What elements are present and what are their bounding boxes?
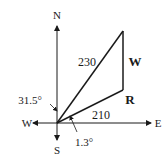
east-label: E <box>155 117 162 129</box>
angle-31-5-pointer <box>50 104 57 111</box>
angle-1-3-pointer <box>70 116 77 132</box>
vector-diagram: N S W E 230 W R 210 31.5° 1.3° <box>0 0 167 164</box>
north-label: N <box>53 9 61 21</box>
south-label: S <box>54 144 60 156</box>
r-magnitude-label: 210 <box>92 108 110 122</box>
angle-above-east-label: 1.3° <box>75 136 93 148</box>
w-label: W <box>129 54 142 69</box>
r-label: R <box>125 92 135 107</box>
resultant-vector-230 <box>57 31 123 123</box>
angle-from-north-label: 31.5° <box>18 94 42 106</box>
r-vector-210 <box>57 90 123 123</box>
west-label: W <box>22 117 33 129</box>
resultant-magnitude-label: 230 <box>78 55 96 69</box>
